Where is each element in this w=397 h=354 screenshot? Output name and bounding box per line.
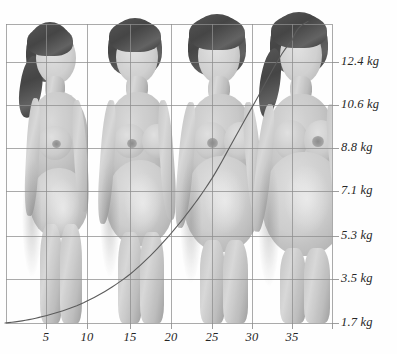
y-axis-label-7-1: 7.1 kg: [341, 183, 373, 198]
x-axis-label-35: 35: [277, 330, 307, 345]
figure-stage-2: [92, 8, 180, 323]
x-axis-label-5: 5: [31, 330, 61, 345]
x-axis-label-25: 25: [197, 330, 227, 345]
figure-stage-4: [254, 8, 332, 323]
figure-stage-1: [12, 8, 98, 323]
y-axis-label-10-6: 10.6 kg: [341, 97, 379, 112]
y-axis-label-8-8: 8.8 kg: [341, 140, 373, 155]
x-axis-label-30: 30: [237, 330, 267, 345]
x-axis-label-15: 15: [115, 330, 145, 345]
y-axis-label-5-3: 5.3 kg: [341, 228, 373, 243]
y-axis-label-12-4: 12.4 kg: [341, 54, 379, 69]
y-axis-label-3-5: 3.5 kg: [341, 271, 373, 286]
chart-figure: 12.4 kg 10.6 kg 8.8 kg 7.1 kg 5.3 kg 3.5…: [0, 0, 397, 354]
y-axis-label-1-7: 1.7 kg: [341, 315, 373, 330]
pregnancy-photo-strip: [6, 8, 332, 323]
x-axis-label-20: 20: [156, 330, 186, 345]
x-axis-label-10: 10: [72, 330, 102, 345]
figure-stage-3: [174, 8, 264, 323]
